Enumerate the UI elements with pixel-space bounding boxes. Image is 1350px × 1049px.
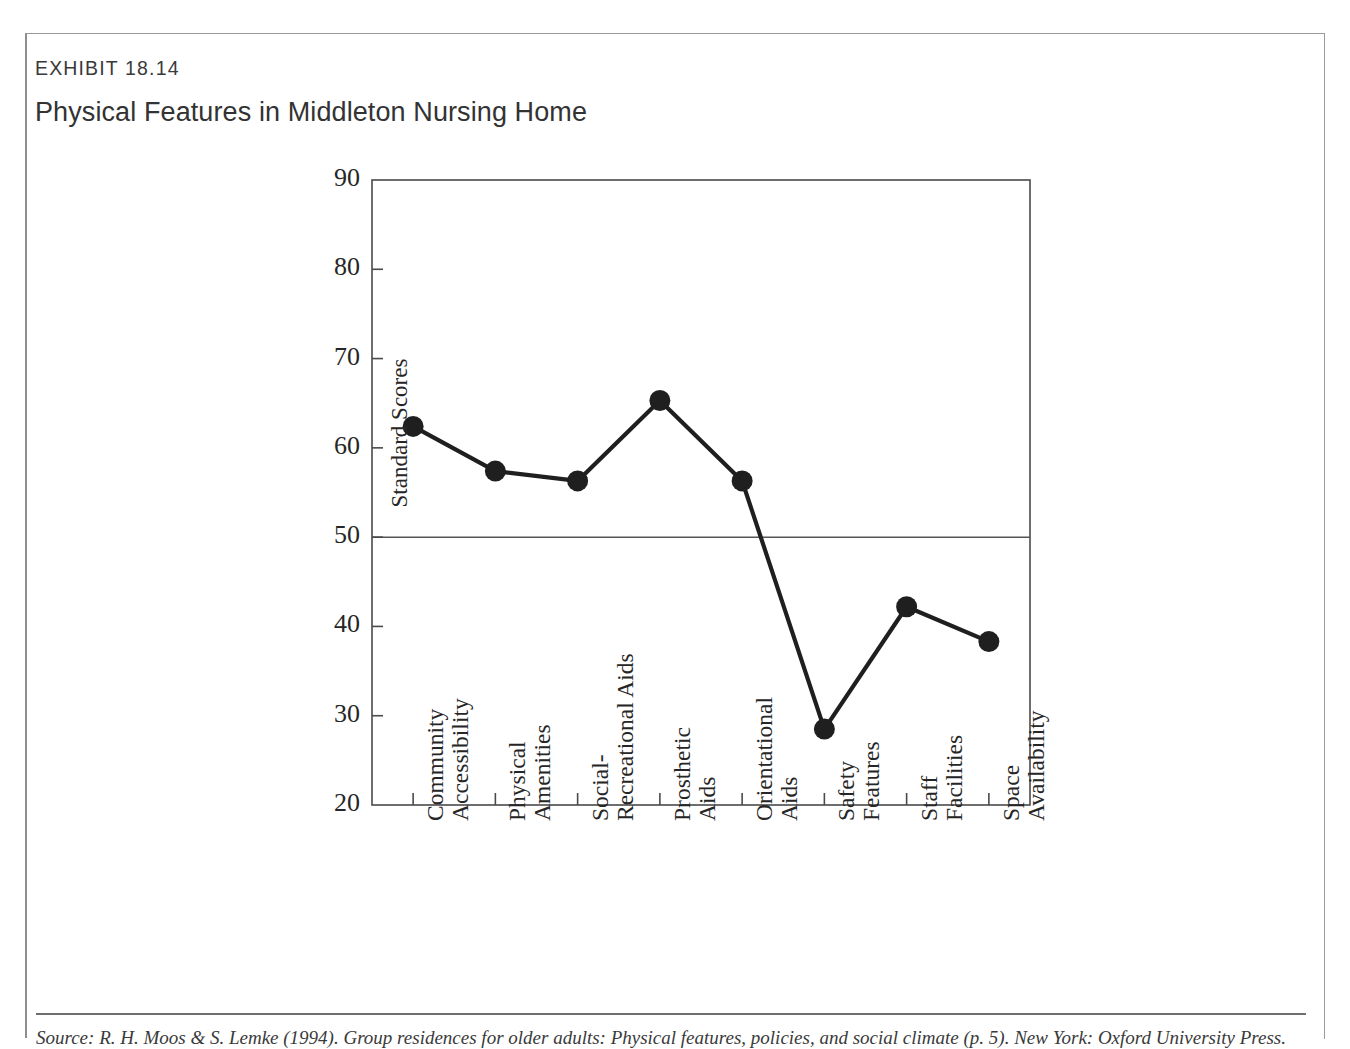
x-axis-category-label: ProstheticAids [670, 727, 721, 821]
data-point-marker[interactable] [732, 470, 753, 491]
x-axis-category-line: Physical [505, 724, 530, 821]
data-point-marker[interactable] [814, 719, 835, 740]
x-axis-category-line: Facilities [942, 735, 967, 821]
data-series-line [413, 401, 989, 730]
x-axis-category-label: StaffFacilities [917, 735, 968, 821]
x-axis-category-label: SpaceAvailability [999, 710, 1050, 821]
x-axis-category-line: Accessibility [449, 698, 474, 821]
x-axis-category-label: Social-Recreational Aids [588, 653, 639, 821]
y-axis-tick-label: 30 [316, 699, 360, 729]
x-axis-category-line: Amenities [531, 724, 556, 821]
x-axis-category-label: OrientationalAids [752, 697, 803, 821]
y-axis-tick-label: 40 [316, 609, 360, 639]
x-axis-category-line: Staff [917, 735, 942, 821]
x-axis-category-line: Aids [778, 697, 803, 821]
x-axis-category-line: Aids [695, 727, 720, 821]
y-axis-title: Standard Scores [387, 323, 413, 543]
data-point-marker[interactable] [896, 596, 917, 617]
x-axis-category-line: Social- [588, 653, 613, 821]
source-citation: Source: R. H. Moos & S. Lemke (1994). Gr… [36, 1027, 1308, 1049]
y-axis-tick-label: 70 [316, 342, 360, 372]
x-axis-category-line: Community [423, 698, 448, 821]
x-axis-category-label: CommunityAccessibility [423, 698, 474, 821]
y-axis-tick-label: 60 [316, 431, 360, 461]
data-point-marker[interactable] [649, 390, 670, 411]
data-point-marker[interactable] [567, 470, 588, 491]
x-axis-category-line: Safety [834, 741, 859, 821]
source-divider [36, 1013, 1306, 1015]
data-point-marker[interactable] [485, 461, 506, 482]
x-axis-category-line: Recreational Aids [613, 653, 638, 821]
x-axis-category-line: Availability [1024, 710, 1049, 821]
x-axis-category-line: Features [860, 741, 885, 821]
y-axis-tick-label: 90 [316, 163, 360, 193]
x-axis-category-line: Space [999, 710, 1024, 821]
y-axis-tick-label: 20 [316, 788, 360, 818]
data-point-marker[interactable] [978, 631, 999, 652]
x-axis-category-label: SafetyFeatures [834, 741, 885, 821]
y-axis-tick-label: 80 [316, 252, 360, 282]
y-axis-tick-label: 50 [316, 520, 360, 550]
x-axis-category-line: Prosthetic [670, 727, 695, 821]
x-axis-category-line: Orientational [752, 697, 777, 821]
x-axis-category-label: PhysicalAmenities [505, 724, 556, 821]
